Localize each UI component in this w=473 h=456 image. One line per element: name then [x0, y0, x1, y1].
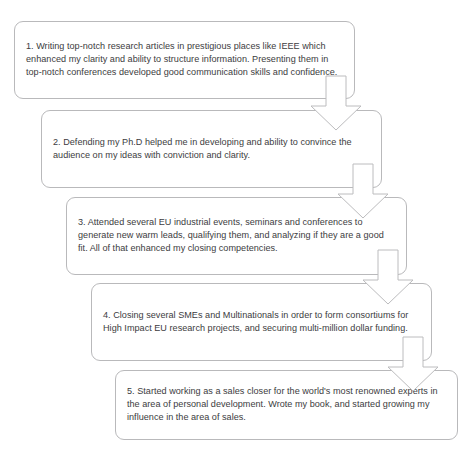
flow-step-1[interactable]: 1. Writing top-notch research articles i… [14, 21, 355, 99]
flowchart-diagram: 1. Writing top-notch research articles i… [0, 0, 473, 456]
flow-step-4-text: 4. Closing several SMEs and Multinationa… [103, 309, 417, 335]
flow-step-2[interactable]: 2. Defending my Ph.D helped me in develo… [41, 110, 382, 188]
flow-step-3[interactable]: 3. Attended several EU industrial events… [66, 197, 407, 275]
flow-step-5[interactable]: 5. Started working as a sales closer for… [115, 370, 458, 440]
flow-step-2-text: 2. Defending my Ph.D helped me in develo… [53, 136, 367, 162]
flow-step-4[interactable]: 4. Closing several SMEs and Multinationa… [91, 283, 432, 361]
flow-step-1-text: 1. Writing top-notch research articles i… [26, 40, 340, 80]
flow-step-5-text: 5. Started working as a sales closer for… [127, 385, 443, 425]
flow-step-3-text: 3. Attended several EU industrial events… [78, 216, 392, 256]
